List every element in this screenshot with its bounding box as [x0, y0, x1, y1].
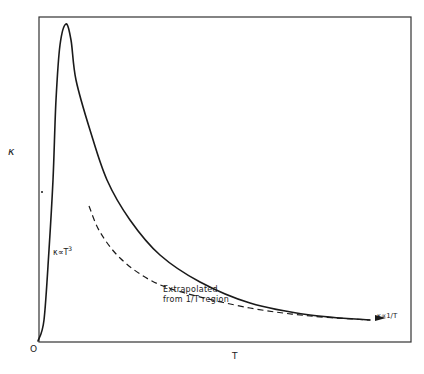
t3-annotation: κ∝T3 — [53, 246, 72, 257]
t3-text: κ∝T — [53, 248, 68, 257]
chart-canvas — [0, 0, 424, 374]
y-axis-label: κ — [8, 146, 14, 157]
inverse-t-annotation: κ∝1/T — [377, 313, 397, 320]
dashed-curve — [89, 206, 370, 320]
extrapolated-annotation: Extrapolated from 1/T region — [163, 285, 229, 305]
stray-dot — [41, 191, 43, 193]
x-axis-label: T — [232, 352, 238, 361]
extrapolated-line1: Extrapolated — [163, 285, 229, 295]
t3-exponent: 3 — [68, 245, 72, 252]
extrapolated-line2: from 1/T region — [163, 295, 229, 305]
origin-label: O — [30, 345, 37, 354]
